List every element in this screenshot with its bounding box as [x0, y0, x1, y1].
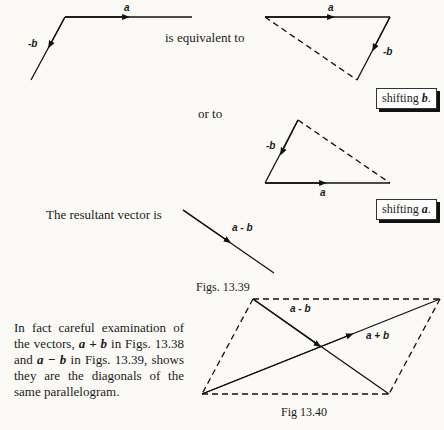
note-shifting-a: shifting a. — [376, 199, 437, 220]
caption-fig-13-40: Fig 13.40 — [281, 405, 327, 420]
label-vector-a: a — [320, 187, 326, 198]
text-resultant: The resultant vector is — [46, 207, 162, 223]
caption-figs-13-39: Figs. 13.39 — [196, 280, 250, 295]
label-vector-neg-b: -b — [383, 46, 392, 57]
label-vector-a-minus-b: a - b — [290, 303, 311, 314]
text-equivalent: is equivalent to — [165, 30, 244, 46]
note-shifting-b: shifting b. — [376, 88, 437, 109]
label-vector-neg-b: -b — [266, 140, 275, 151]
body-paragraph: In fact careful examination of the vecto… — [14, 320, 184, 400]
label-vector-a-minus-b: a - b — [232, 222, 253, 233]
label-vector-a-plus-b: a + b — [366, 330, 389, 341]
label-vector-a: a — [328, 2, 334, 13]
text-or-to: or to — [198, 106, 222, 122]
label-vector-neg-b: -b — [28, 38, 37, 49]
label-vector-a: a — [124, 2, 130, 13]
